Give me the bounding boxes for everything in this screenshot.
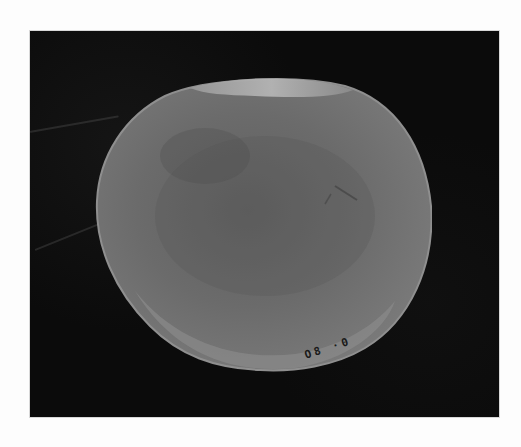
page: O8 ·0	[0, 0, 521, 447]
background-streak	[35, 223, 101, 251]
stone-shape	[95, 76, 432, 372]
stone-artifact	[95, 76, 432, 372]
